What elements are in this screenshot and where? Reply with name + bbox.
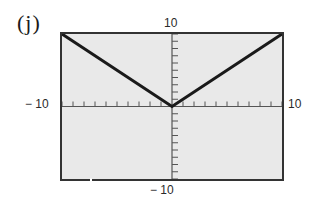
frame-gap xyxy=(90,179,92,182)
graph-screen xyxy=(0,0,313,206)
